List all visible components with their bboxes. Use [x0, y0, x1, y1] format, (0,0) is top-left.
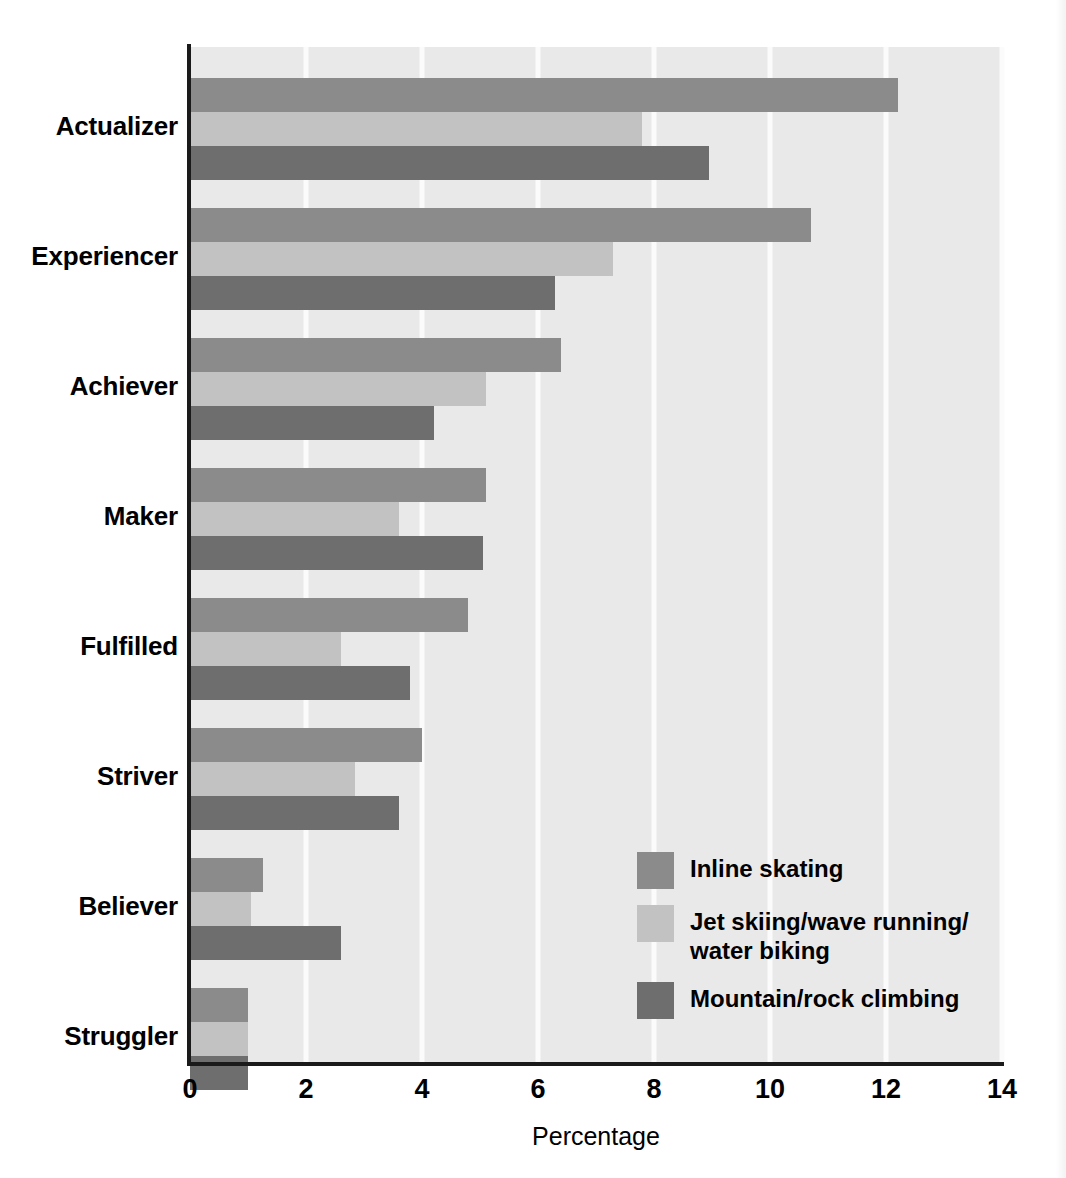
category-label-fulfilled: Fulfilled	[0, 631, 178, 662]
category-label-actualizer: Actualizer	[0, 111, 178, 142]
bar	[190, 1022, 248, 1056]
bar	[190, 112, 642, 146]
bar	[190, 146, 709, 180]
legend: Inline skatingJet skiing/wave running/ w…	[637, 852, 1007, 1035]
category-axis-labels: ActualizerExperiencerAchieverMakerFulfil…	[0, 0, 178, 1178]
legend-label: Jet skiing/wave running/ water biking	[690, 905, 969, 966]
bar	[190, 762, 355, 796]
legend-swatch-icon	[637, 905, 674, 942]
x-tick-label: 14	[972, 1074, 1032, 1105]
x-tick-label: 0	[160, 1074, 220, 1105]
legend-item: Mountain/rock climbing	[637, 982, 1007, 1019]
bar	[190, 666, 410, 700]
bar	[190, 242, 613, 276]
category-label-maker: Maker	[0, 501, 178, 532]
legend-swatch-icon	[637, 982, 674, 1019]
bar	[190, 536, 483, 570]
category-label-striver: Striver	[0, 761, 178, 792]
category-label-struggler: Struggler	[0, 1021, 178, 1052]
bar	[190, 468, 486, 502]
legend-label: Inline skating	[690, 852, 843, 884]
category-label-believer: Believer	[0, 891, 178, 922]
x-axis-line	[187, 1062, 1004, 1066]
x-tick-label: 8	[624, 1074, 684, 1105]
x-tick-label: 2	[276, 1074, 336, 1105]
bar	[190, 728, 422, 762]
legend-label: Mountain/rock climbing	[690, 982, 959, 1014]
bar	[190, 598, 468, 632]
bar	[190, 406, 434, 440]
page-edge-shadow	[1056, 0, 1066, 1178]
bar	[190, 926, 341, 960]
chart-page: ActualizerExperiencerAchieverMakerFulfil…	[0, 0, 1066, 1178]
bar	[190, 988, 248, 1022]
legend-item: Jet skiing/wave running/ water biking	[637, 905, 1007, 966]
legend-item: Inline skating	[637, 852, 1007, 889]
bar	[190, 338, 561, 372]
bar	[190, 372, 486, 406]
bar	[190, 78, 898, 112]
legend-swatch-icon	[637, 852, 674, 889]
x-tick-label: 6	[508, 1074, 568, 1105]
x-tick-label: 10	[740, 1074, 800, 1105]
x-tick-label: 12	[856, 1074, 916, 1105]
category-label-experiencer: Experiencer	[0, 241, 178, 272]
x-axis-title: Percentage	[190, 1122, 1002, 1151]
bar	[190, 276, 555, 310]
bar	[190, 502, 399, 536]
bar	[190, 632, 341, 666]
bar	[190, 796, 399, 830]
bar	[190, 858, 263, 892]
x-tick-label: 4	[392, 1074, 452, 1105]
category-label-achiever: Achiever	[0, 371, 178, 402]
bar	[190, 892, 251, 926]
bar	[190, 208, 811, 242]
y-axis-line	[187, 44, 191, 1065]
